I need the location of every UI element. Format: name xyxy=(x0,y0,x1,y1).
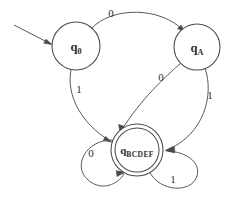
start-arrow-head xyxy=(44,39,53,45)
transition-q0-to-qBCDEF: 1 xyxy=(70,70,112,142)
transition-q0-to-qBCDEF-label: 1 xyxy=(76,83,82,95)
state-q0-label-main: q xyxy=(70,40,77,54)
fsm-canvas: 0 1 0 1 0 1 xyxy=(0,0,236,198)
transition-qA-to-qBCDEF-label: 0 xyxy=(158,71,164,83)
state-qA[interactable]: qA xyxy=(174,24,220,70)
transition-qA-to-qBCDEF-alt: 1 xyxy=(165,68,213,152)
state-q0[interactable]: q0 xyxy=(52,22,100,70)
transition-qA-to-qBCDEF-arc xyxy=(121,63,181,131)
transition-qA-to-qBCDEF: 0 xyxy=(119,63,182,133)
transition-qA-to-qBCDEF-alt-label: 1 xyxy=(207,89,213,101)
transition-q0-to-qA-arc xyxy=(92,12,184,31)
state-qA-label-main: q xyxy=(191,41,198,55)
transition-qBCDEF-self-right-label: 1 xyxy=(170,173,176,185)
transition-q0-to-qA: 0 xyxy=(92,7,186,33)
state-qA-label-sub: A xyxy=(198,48,204,57)
fsm-diagram: 0 1 0 1 0 1 xyxy=(0,0,236,198)
start-arrow xyxy=(14,25,53,45)
transition-qBCDEF-self-left-label: 0 xyxy=(88,147,94,159)
transition-qA-to-qBCDEF-alt-arc xyxy=(167,68,208,150)
state-q0-label-sub: 0 xyxy=(77,47,81,56)
state-qBCDEF[interactable]: qBCDEF xyxy=(111,124,163,176)
transition-q0-to-qA-label: 0 xyxy=(108,7,114,19)
state-qBCDEF-label-sub: BCDEF xyxy=(126,150,154,159)
transition-q0-to-qBCDEF-arc xyxy=(70,70,110,141)
